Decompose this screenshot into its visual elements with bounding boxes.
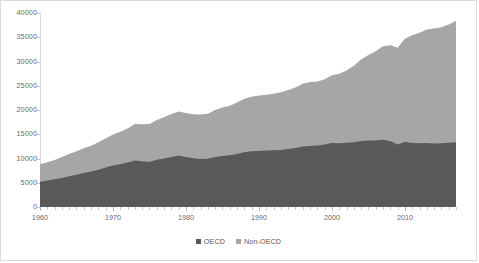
x-tick-mark-major [405,207,406,211]
x-tick-mark-minor [142,207,143,210]
x-tick-mark-minor [193,207,194,210]
x-tick-mark-minor [339,207,340,210]
x-tick-mark-minor [157,207,158,210]
x-tick-mark-minor [274,207,275,210]
x-tick-label: 1970 [105,213,121,222]
x-tick-mark-minor [317,207,318,210]
x-tick-mark-minor [303,207,304,210]
x-tick-mark-minor [295,207,296,210]
y-tick-label: 20000 [1,106,37,114]
x-tick-mark-minor [390,207,391,210]
x-tick-mark-minor [171,207,172,210]
x-tick-mark-minor [55,207,56,210]
x-tick-mark-major [40,207,41,211]
x-tick-mark-minor [164,207,165,210]
x-tick-label: 1990 [251,213,267,222]
legend-label: Non-OECD [244,237,281,246]
y-tick-label: 10000 [1,155,37,163]
x-tick-mark-minor [69,207,70,210]
x-tick-mark-major [113,207,114,211]
x-tick-mark-minor [420,207,421,210]
x-tick-mark-minor [427,207,428,210]
x-tick-mark-minor [201,207,202,210]
x-tick-label: 1960 [32,213,48,222]
y-tick-label: 25000 [1,82,37,90]
x-tick-label: 1980 [178,213,194,222]
x-tick-mark-minor [266,207,267,210]
y-axis: 0500010000150002000025000300003500040000 [1,1,37,207]
x-tick-mark-minor [76,207,77,210]
y-tick-label: 0 [1,203,37,211]
x-tick-mark-minor [149,207,150,210]
stacked-area-series [40,13,456,207]
x-tick-mark-minor [179,207,180,210]
x-tick-mark-minor [98,207,99,210]
x-tick-mark-minor [91,207,92,210]
legend-item[interactable]: Non-OECD [236,237,281,246]
legend-label: OECD [204,237,225,246]
x-tick-mark-minor [449,207,450,210]
x-tick-mark-minor [135,207,136,210]
x-tick-mark-minor [244,207,245,210]
x-axis: 196019701980199020002010 [40,207,458,227]
x-tick-mark-minor [456,207,457,210]
x-tick-mark-minor [434,207,435,210]
x-tick-mark-minor [398,207,399,210]
chart-legend: OECDNon-OECD [1,237,476,246]
x-tick-mark-minor [47,207,48,210]
legend-swatch-icon [236,239,241,244]
x-tick-mark-minor [237,207,238,210]
x-tick-mark-minor [412,207,413,210]
x-tick-mark-minor [84,207,85,210]
legend-swatch-icon [196,239,201,244]
x-tick-mark-minor [325,207,326,210]
x-tick-mark-minor [368,207,369,210]
y-tick-label: 40000 [1,9,37,17]
x-tick-label: 2010 [397,213,413,222]
x-tick-mark-minor [128,207,129,210]
x-tick-mark-minor [281,207,282,210]
y-tick-label: 15000 [1,130,37,138]
x-tick-mark-minor [120,207,121,210]
x-tick-mark-minor [376,207,377,210]
x-tick-mark-minor [208,207,209,210]
x-tick-mark-minor [347,207,348,210]
x-tick-label: 2000 [324,213,340,222]
x-tick-mark-major [186,207,187,211]
x-tick-mark-minor [354,207,355,210]
y-tick-label: 30000 [1,58,37,66]
x-tick-mark-minor [62,207,63,210]
y-tick-label: 5000 [1,179,37,187]
x-tick-mark-minor [215,207,216,210]
x-tick-mark-major [332,207,333,211]
x-tick-mark-minor [288,207,289,210]
x-tick-mark-major [259,207,260,211]
x-tick-mark-minor [361,207,362,210]
x-tick-mark-minor [252,207,253,210]
chart-container: 0500010000150002000025000300003500040000… [0,0,477,261]
legend-item[interactable]: OECD [196,237,225,246]
x-tick-mark-minor [106,207,107,210]
y-tick-label: 35000 [1,33,37,41]
plot-wrapper [40,13,456,207]
x-tick-mark-minor [383,207,384,210]
x-tick-mark-minor [230,207,231,210]
x-tick-mark-minor [441,207,442,210]
x-tick-mark-minor [310,207,311,210]
x-tick-mark-minor [222,207,223,210]
